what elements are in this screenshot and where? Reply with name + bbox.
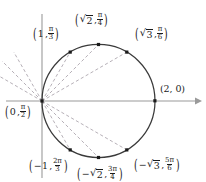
label-theta-fraction: 3π 4 xyxy=(107,166,117,181)
label-r-value: 1 xyxy=(42,161,48,171)
close-paren: ) xyxy=(176,159,180,171)
radical-icon: √ 2 xyxy=(80,14,93,25)
close-paren: ) xyxy=(104,14,108,26)
label-theta-fraction: 5π 6 xyxy=(164,157,174,172)
label-r-value: 2 xyxy=(96,169,103,180)
label-theta-fraction: π 4 xyxy=(97,12,103,27)
open-paren: ( xyxy=(75,14,79,26)
point-sqrt3-pi6 xyxy=(125,51,128,54)
point-2-0 xyxy=(153,99,156,102)
point-sqrt2-pi4 xyxy=(97,43,100,46)
label-theta-fraction: π 6 xyxy=(157,26,163,41)
open-paren: ( xyxy=(135,28,139,40)
label-r-value: 0 xyxy=(10,107,16,117)
minus-sign: − xyxy=(139,160,147,170)
ray-pi-6 xyxy=(42,52,127,101)
open-paren: ( xyxy=(29,160,33,172)
label-r-value: 1 xyxy=(38,29,44,39)
close-paren: ) xyxy=(64,160,68,172)
label-point-neg1-2pi3: ( − 1 , 2π 3 ) xyxy=(28,158,69,173)
point-neg1-2pi3 xyxy=(69,148,72,151)
open-paren: ( xyxy=(5,106,9,118)
label-point-0-pi2: ( 0 , π 2 ) xyxy=(4,104,32,119)
minus-sign: − xyxy=(34,161,42,171)
x-axis-arrow-icon xyxy=(195,97,202,104)
label-r-value: 3 xyxy=(146,29,153,40)
radical-icon: √ 3 xyxy=(140,28,153,39)
point-1-pi3 xyxy=(69,51,72,54)
label-theta-fraction: π 2 xyxy=(20,104,26,119)
open-paren: ( xyxy=(33,28,37,40)
label-theta-fraction: 2π 3 xyxy=(52,158,62,173)
label-point-negsqrt2-3pi4: ( − √ 2 , 3π 4 ) xyxy=(76,166,124,181)
minus-sign: − xyxy=(82,169,90,179)
label-r-value: 2 xyxy=(86,15,93,26)
label-point-negsqrt3-5pi6: ( − √ 3 , 5π 6 ) xyxy=(133,157,181,172)
point-negsqrt3-5pi6 xyxy=(125,148,128,151)
label-r-value: 3 xyxy=(153,160,160,171)
ray-5pi-6 xyxy=(42,101,127,150)
close-paren: ) xyxy=(27,106,31,118)
open-paren: ( xyxy=(134,159,138,171)
label-point-1-pi3: ( 1 , π 3 ) xyxy=(32,26,60,41)
label-point-sqrt3-pi6: ( √ 3 , π 6 ) xyxy=(134,26,169,41)
radical-icon: √ 2 xyxy=(90,168,103,179)
close-paren: ) xyxy=(164,28,168,40)
radical-icon: √ 3 xyxy=(147,159,160,170)
close-paren: ) xyxy=(119,168,123,180)
point-negsqrt2-3pi4 xyxy=(97,156,100,159)
close-paren: ) xyxy=(55,28,59,40)
open-paren: ( xyxy=(77,168,81,180)
point-0-pi2 xyxy=(40,99,43,102)
label-theta-fraction: π 3 xyxy=(48,26,54,41)
label-point-2-0: (2, 0) xyxy=(160,84,185,94)
label-point-sqrt2-pi4: ( √ 2 , π 4 ) xyxy=(74,12,109,27)
